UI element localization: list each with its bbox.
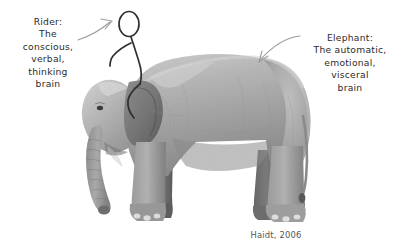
source-citation: Haidt, 2006: [228, 230, 324, 240]
rider-head: [119, 12, 139, 37]
rider-label-line-3: conscious,: [2, 41, 94, 53]
rider-label-line-4: verbal,: [2, 53, 94, 65]
elephant-trunk-tip: [98, 206, 110, 215]
elephant-label-line-3: emotional,: [296, 57, 404, 69]
elephant-eye: [97, 106, 103, 110]
elephant-belly-shadow: [172, 138, 272, 171]
rider-label-line-5: thinking: [2, 66, 94, 78]
rider-label-line-1: Rider:: [2, 16, 94, 28]
elephant-label-line-2: The automatic,: [296, 44, 404, 56]
rider-annotation-label: Rider: The conscious, verbal, thinking b…: [2, 16, 94, 90]
rider-arm: [110, 43, 131, 66]
elephant-pointer-arrow: [259, 36, 300, 62]
elephant-label-line-4: visceral: [296, 69, 404, 81]
elephant-annotation-label: Elephant: The automatic, emotional, visc…: [296, 32, 404, 94]
figure-canvas: Rider: The conscious, verbal, thinking b…: [0, 0, 406, 251]
elephant-tail-tuft: [299, 193, 306, 203]
rider-label-line-6: brain: [2, 78, 94, 90]
rider-label-line-2: The: [2, 28, 94, 40]
elephant-label-line-5: brain: [296, 82, 404, 94]
elephant-artwork: [82, 54, 311, 222]
elephant-label-line-1: Elephant:: [296, 32, 404, 44]
